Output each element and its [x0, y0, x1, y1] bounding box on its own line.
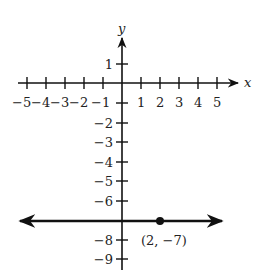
svg-text:−1: −1 [91, 95, 110, 110]
y-axis-label: y [117, 21, 126, 36]
point-label: (2, −7) [141, 233, 187, 248]
point-2-neg7 [156, 217, 164, 225]
svg-text:−9: −9 [94, 252, 113, 267]
svg-text:5: 5 [213, 95, 221, 110]
svg-text:−2: −2 [69, 95, 88, 110]
svg-text:1: 1 [105, 57, 113, 72]
svg-text:1: 1 [137, 95, 145, 110]
svg-text:−3: −3 [94, 135, 113, 150]
svg-text:−8: −8 [94, 233, 113, 248]
coordinate-plane: y x −5 −4 −3 −2 −1 1 2 3 4 5 1 −2 −3 −4 … [0, 0, 265, 277]
svg-text:−4: −4 [94, 155, 113, 170]
svg-text:−4: −4 [31, 95, 50, 110]
svg-text:−3: −3 [50, 95, 69, 110]
x-axis-label: x [244, 75, 252, 90]
svg-text:−2: −2 [94, 116, 113, 131]
svg-text:2: 2 [156, 95, 164, 110]
svg-text:−5: −5 [12, 95, 31, 110]
svg-text:−6: −6 [94, 194, 113, 209]
svg-text:3: 3 [175, 95, 183, 110]
svg-text:4: 4 [194, 95, 202, 110]
svg-text:−5: −5 [94, 174, 113, 189]
